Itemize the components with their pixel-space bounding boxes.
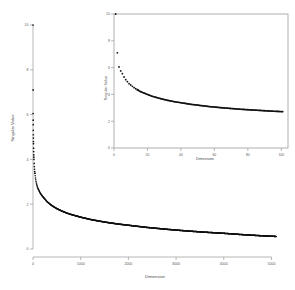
data-point <box>33 154 35 156</box>
inset-x-tick-label: 40 <box>179 153 183 157</box>
data-point <box>123 76 125 78</box>
inset-y-tick-label: 6 <box>108 66 110 70</box>
inset-x-tick-label: 0 <box>113 153 115 157</box>
main-y-ticks: 0246810 <box>25 23 34 251</box>
data-point <box>32 113 34 115</box>
main-y-tick-label: 2 <box>27 203 29 207</box>
data-point <box>33 147 35 149</box>
data-point <box>116 52 118 54</box>
data-point <box>282 111 284 113</box>
data-point <box>132 85 134 87</box>
data-point <box>33 159 35 161</box>
main-y-axis-title: Singular Value <box>10 114 15 142</box>
data-point <box>34 175 36 177</box>
data-point <box>32 124 34 126</box>
main-x-axis-title: Dimension <box>145 274 165 279</box>
inset-y-tick-label: 0 <box>108 146 110 150</box>
data-point <box>130 84 132 86</box>
chart-figure: 0246810 010002000300040005000 Dimension … <box>0 0 295 290</box>
main-x-tick-label: 0 <box>32 262 34 266</box>
inset-x-tick-label: 100 <box>278 153 284 157</box>
data-point <box>32 89 34 91</box>
data-point <box>34 168 36 170</box>
data-point <box>118 66 120 68</box>
data-point <box>126 81 128 83</box>
data-point <box>35 179 37 181</box>
data-point <box>115 13 117 15</box>
data-point <box>120 70 122 72</box>
data-point <box>33 156 35 158</box>
main-x-tick-label: 3000 <box>172 262 180 266</box>
main-x-tick-label: 5000 <box>267 262 275 266</box>
data-point <box>135 88 137 90</box>
main-x-tick-label: 2000 <box>124 262 132 266</box>
data-point <box>32 24 34 26</box>
data-point <box>32 119 34 121</box>
data-point <box>35 181 37 183</box>
main-y-tick-label: 10 <box>25 23 29 27</box>
data-point <box>275 236 277 238</box>
main-y-tick-label: 4 <box>27 158 29 162</box>
data-point <box>32 134 34 136</box>
main-x-tick-label: 1000 <box>77 262 85 266</box>
inset-plot: 0246810 020406080100 Dimension Singular … <box>100 10 292 165</box>
inset-y-tick-label: 2 <box>108 120 110 124</box>
inset-y-tick-label: 10 <box>106 12 110 16</box>
data-point <box>34 173 36 175</box>
data-point <box>125 79 127 81</box>
data-point <box>33 163 35 165</box>
data-point <box>32 129 34 131</box>
scree-plot-svg: 0246810 010002000300040005000 Dimension … <box>0 0 295 290</box>
data-point <box>33 141 35 143</box>
main-x-tick-label: 4000 <box>220 262 228 266</box>
data-point <box>133 87 135 89</box>
inset-background <box>100 10 292 165</box>
data-point <box>33 151 35 153</box>
inset-x-tick-label: 80 <box>246 153 250 157</box>
data-point <box>128 83 130 85</box>
inset-y-axis-title: Singular Value <box>104 76 108 100</box>
main-y-tick-label: 6 <box>27 113 29 117</box>
main-y-tick-label: 8 <box>27 68 29 72</box>
data-point <box>33 166 35 168</box>
inset-y-tick-label: 8 <box>108 39 110 43</box>
data-point <box>121 73 123 75</box>
inset-x-tick-label: 20 <box>146 153 150 157</box>
inset-y-tick-label: 4 <box>108 93 110 97</box>
data-point <box>35 177 37 179</box>
inset-x-axis-title: Dimension <box>196 157 214 161</box>
main-x-ticks: 010002000300040005000 <box>32 257 275 266</box>
data-point <box>33 137 35 139</box>
main-y-tick-label: 0 <box>27 247 29 251</box>
data-point <box>33 143 35 145</box>
data-point <box>34 171 36 173</box>
